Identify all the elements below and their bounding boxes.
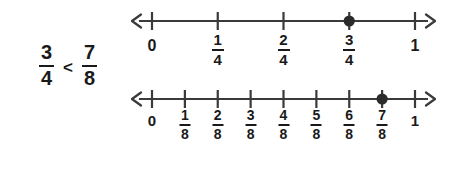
fraction-comparison-expression: 3 4 < 7 8 [18,42,118,90]
tick-label-1: 1 [411,32,420,55]
right-fraction-seven-eighths: 7 8 [82,42,97,89]
tick-fraction-denominator: 8 [247,127,255,142]
tick-label-7-over-8: 78 [377,108,388,142]
eighths-tick-label-row: 0182838485868781 [126,78,436,163]
tick-label-4-over-8: 48 [278,108,289,142]
left-fraction-three-fourths: 3 4 [39,42,54,89]
tick-fraction: 78 [377,108,388,142]
left-fraction-numerator: 3 [41,42,52,64]
tick-label-text: 1 [411,113,419,130]
tick-fraction-denominator: 8 [345,127,353,142]
tick-fraction-numerator: 6 [345,108,353,123]
tick-label-5-over-8: 58 [311,108,322,142]
tick-fraction: 24 [278,32,290,68]
left-fraction-denominator: 4 [41,68,52,90]
tick-label-0: 0 [148,32,157,55]
tick-fraction-numerator: 5 [312,108,320,123]
tick-label-3-over-8: 38 [245,108,256,142]
tick-fraction-denominator: 8 [312,127,320,142]
fourths-number-line: 01424341 [126,0,436,80]
tick-fraction: 14 [212,32,224,68]
tick-label-2-over-8: 28 [212,108,223,142]
tick-fraction-numerator: 4 [280,108,288,123]
tick-label-text: 0 [148,37,157,55]
tick-fraction-denominator: 4 [345,52,353,68]
tick-fraction-denominator: 8 [378,127,386,142]
right-fraction-denominator: 8 [84,68,95,90]
tick-fraction: 58 [311,108,322,142]
tick-label-text: 1 [411,37,420,55]
tick-label-0: 0 [148,108,156,130]
tick-fraction-denominator: 4 [214,52,222,68]
figure-canvas: 3 4 < 7 8 01424341 0182838485868781 [0,0,457,169]
tick-fraction-numerator: 2 [214,108,222,123]
relation-symbol-less-than: < [63,59,73,76]
tick-fraction-denominator: 8 [214,127,222,142]
tick-fraction-numerator: 3 [345,32,353,48]
tick-fraction-numerator: 3 [247,108,255,123]
tick-label-2-over-4: 24 [278,32,290,68]
tick-label-6-over-8: 68 [344,108,355,142]
tick-fraction-numerator: 7 [378,108,386,123]
tick-fraction: 34 [343,32,355,68]
tick-fraction-numerator: 1 [181,108,189,123]
tick-fraction: 28 [212,108,223,142]
tick-fraction-denominator: 8 [181,127,189,142]
right-fraction-numerator: 7 [84,42,95,64]
tick-label-1-over-8: 18 [179,108,190,142]
tick-fraction: 68 [344,108,355,142]
tick-fraction: 18 [179,108,190,142]
tick-fraction: 38 [245,108,256,142]
tick-label-3-over-4: 34 [343,32,355,68]
tick-fraction: 48 [278,108,289,142]
tick-label-text: 0 [148,113,156,130]
tick-label-1: 1 [411,108,419,130]
tick-fraction-numerator: 2 [279,32,287,48]
tick-fraction-numerator: 1 [214,32,222,48]
tick-fraction-denominator: 8 [280,127,288,142]
tick-fraction-denominator: 4 [279,52,287,68]
eighths-number-line: 0182838485868781 [126,78,436,163]
fourths-tick-label-row: 01424341 [126,0,436,80]
tick-label-1-over-4: 14 [212,32,224,68]
